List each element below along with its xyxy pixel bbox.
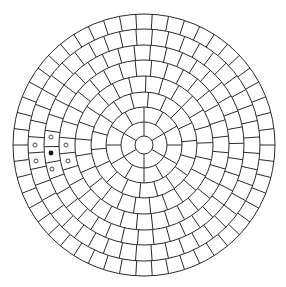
cell-divider [218, 234, 228, 246]
cell-divider [152, 150, 164, 157]
cell-divider [156, 112, 164, 125]
cell-divider [45, 130, 60, 132]
cell-divider [88, 26, 94, 40]
cell-divider [184, 180, 196, 191]
cell-divider [181, 155, 195, 159]
ring-circle [59, 60, 229, 230]
cell-divider [89, 43, 97, 57]
cell-divider [229, 224, 240, 234]
cell-divider [164, 64, 169, 79]
cell-divider [246, 82, 259, 89]
cell-divider [213, 136, 229, 138]
cell-divider [69, 178, 83, 186]
cell-divider [137, 230, 138, 245]
cell-divider [164, 126, 177, 134]
cell-divider [88, 233, 96, 247]
cell-divider [210, 82, 222, 91]
cell-divider [96, 161, 110, 167]
cell-divider [182, 140, 197, 141]
cell-divider [51, 75, 64, 85]
cell-divider [179, 36, 185, 51]
cell-divider [215, 63, 226, 74]
cell-divider [224, 205, 237, 215]
cell-divider [17, 174, 32, 178]
cell-divider [228, 127, 243, 130]
cell-divider [75, 52, 85, 65]
polar-grid-figure [0, 0, 286, 287]
cell-divider [152, 134, 164, 141]
cell-divider [159, 79, 163, 94]
cell-divider [104, 255, 109, 269]
cell-divider [136, 245, 137, 261]
cell-divider [134, 46, 135, 61]
cell-divider [31, 166, 47, 169]
cell-divider [197, 143, 213, 144]
cell-divider [55, 99, 68, 106]
cell-divider [176, 70, 183, 84]
cell-divider [78, 92, 90, 102]
cell-divider [118, 49, 122, 63]
cell-divider [232, 193, 246, 201]
cell-divider [139, 183, 140, 198]
cell-divider [152, 230, 153, 245]
cell-divider [120, 32, 123, 48]
cell-divider [87, 106, 100, 115]
cell-divider [62, 216, 73, 227]
cell-divider [150, 60, 151, 76]
cell-divider [238, 213, 250, 222]
cell-divider [75, 73, 85, 84]
cell-divider [212, 196, 224, 205]
cell-divider [81, 166, 96, 172]
cell-divider [224, 76, 237, 86]
cell-divider [154, 182, 158, 196]
cell-divider [103, 70, 111, 84]
cell-divider [166, 176, 175, 188]
cell-divider [124, 150, 136, 157]
cell-divider [79, 122, 94, 127]
cell-divider [151, 214, 153, 230]
cell-divider [38, 213, 50, 222]
cell-divider [136, 261, 137, 276]
cell-divider [51, 205, 64, 215]
neighbor-cell-dot [33, 143, 37, 147]
cell-divider [171, 108, 182, 119]
neighbor-cell-dot [49, 135, 53, 139]
cell-divider [219, 184, 232, 191]
cell-divider [238, 68, 250, 77]
cell-divider [177, 206, 185, 220]
cell-divider [38, 68, 50, 77]
cell-divider [90, 80, 100, 92]
cell-divider [119, 259, 122, 274]
cell-divider [180, 20, 185, 34]
cell-divider [179, 239, 185, 254]
cell-divider [46, 160, 61, 163]
cell-divider [179, 222, 185, 236]
cell-divider [29, 201, 42, 208]
cell-divider [256, 174, 271, 178]
cell-divider [66, 198, 78, 207]
cell-divider [238, 105, 253, 111]
cell-divider [14, 129, 29, 131]
cell-divider [102, 187, 112, 200]
ring-circles [13, 14, 275, 276]
cell-divider [215, 216, 226, 227]
cell-divider [259, 160, 274, 162]
cell-divider [31, 120, 47, 123]
cell-divider [59, 152, 75, 154]
cell-divider [135, 60, 137, 76]
cell-divider [206, 243, 214, 256]
cell-divider [69, 105, 83, 112]
cell-divider [181, 96, 192, 107]
cell-divider [35, 104, 50, 110]
cell-divider [166, 227, 170, 241]
cell-divider [242, 166, 258, 169]
cell-divider [130, 94, 134, 108]
cell-divider [78, 209, 88, 220]
cell-divider [88, 250, 94, 264]
cell-divider [210, 165, 225, 170]
cell-divider [49, 55, 60, 65]
cell-divider [104, 20, 109, 34]
cell-divider [193, 26, 199, 40]
cell-divider [164, 211, 169, 226]
cell-divider [147, 92, 148, 107]
